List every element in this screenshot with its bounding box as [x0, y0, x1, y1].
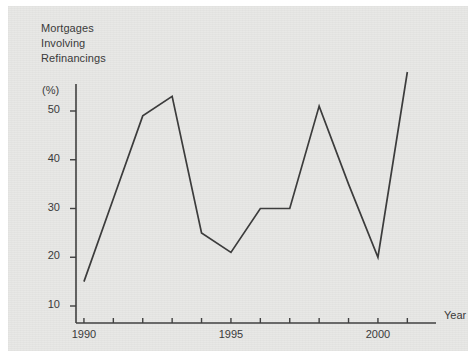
x-axis-title: Year — [444, 309, 466, 321]
x-tick-label: 1990 — [64, 328, 104, 340]
y-tick-label: 20 — [34, 249, 60, 261]
data-line-series — [84, 72, 407, 282]
chart-figure: Mortgages Involving Refinancings (%) 102… — [8, 6, 468, 351]
x-tick-label: 1995 — [211, 328, 251, 340]
x-tick-label: 2000 — [358, 328, 398, 340]
y-axis-ticks — [70, 111, 76, 306]
line-chart-plot — [8, 6, 468, 351]
y-tick-label: 10 — [34, 298, 60, 310]
y-tick-label: 30 — [34, 201, 60, 213]
y-tick-label: 50 — [34, 103, 60, 115]
y-tick-label: 40 — [34, 152, 60, 164]
